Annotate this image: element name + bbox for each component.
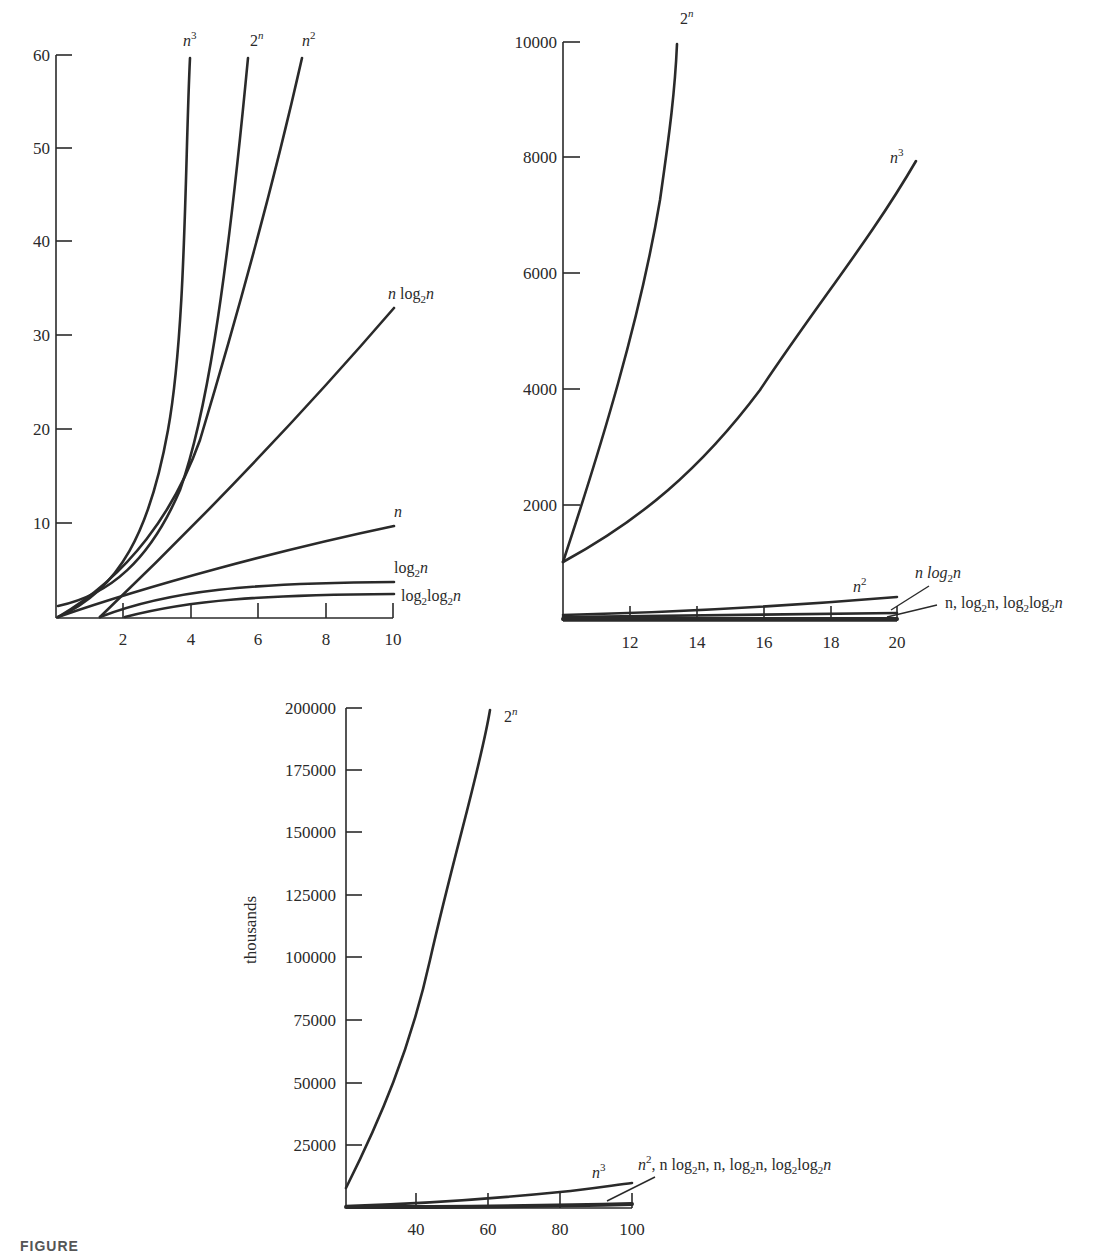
plot3-y-axis-title: thousands — [241, 896, 260, 964]
plot2-y-tick-label: 4000 — [523, 380, 557, 399]
plot3-y-ticks: 25000 50000 75000 100000 125000 150000 1… — [285, 699, 362, 1155]
plot1-curve-n-log-n — [100, 308, 394, 617]
plot2-label-linear-group: n, log2n, log2log2n — [945, 594, 1063, 614]
plot3-label-polynomial-group: n2, n log2n, n, log2n, log2log2n — [638, 1153, 831, 1176]
plot3-x-tick-label: 60 — [480, 1220, 497, 1239]
plot1-y-tick-label: 20 — [33, 420, 50, 439]
figure-caption: FIGURE — [20, 1238, 79, 1254]
plot2-leader-linear-group — [887, 605, 937, 617]
plot1-x-tick-label: 8 — [322, 630, 331, 649]
plot2-curve-two-to-n — [563, 44, 677, 562]
plot3-curve-two-to-n — [346, 710, 490, 1188]
plot1-curve-two-to-n — [58, 58, 248, 606]
plot2-curve-n-cubed — [563, 161, 916, 562]
plot2-x-tick-label: 12 — [622, 633, 639, 652]
plot2-y-tick-label: 2000 — [523, 496, 557, 515]
plot3-y-tick-label: 100000 — [285, 948, 336, 967]
plot2-label-two-to-n: 2n — [680, 7, 694, 27]
plot3-label-two-to-n: 2n — [504, 705, 518, 725]
plot1-y-tick-label: 10 — [33, 514, 50, 533]
plot3-y-tick-label: 75000 — [294, 1011, 337, 1030]
plot3-y-tick-label: 125000 — [285, 886, 336, 905]
plot1-x-tick-label: 6 — [254, 630, 263, 649]
plot3-y-tick-label: 200000 — [285, 699, 336, 718]
plot1-y-tick-label: 60 — [33, 46, 50, 65]
plot3-x-tick-label: 40 — [408, 1220, 425, 1239]
plot1-label-log-log-n: log2log2n — [401, 587, 461, 607]
plot2-y-tick-label: 6000 — [523, 264, 557, 283]
plot2-x-tick-label: 16 — [756, 633, 773, 652]
plot3-leader-polynomial-group — [607, 1177, 655, 1201]
plot1-label-log-n: log2n — [394, 559, 428, 579]
plot1-x-tick-label: 4 — [187, 630, 196, 649]
plot1-label-two-to-n: 2n — [250, 29, 264, 49]
plot2-y-tick-label: 8000 — [523, 148, 557, 167]
plot3-y-tick-label: 50000 — [294, 1074, 337, 1093]
plot1-label-n-cubed: n3 — [183, 29, 197, 49]
plot2-label-n-squared: n2 — [853, 575, 867, 595]
plot3-curve-n-cubed — [346, 1183, 632, 1206]
plot3-x-tick-label: 80 — [552, 1220, 569, 1239]
plot2-y-tick-label: 10000 — [515, 33, 558, 52]
plot1-label-n-log-n: n log2n — [388, 285, 434, 305]
plot-small-n: 10 20 30 40 50 60 2 4 6 8 10 n3 — [33, 29, 461, 649]
plot1-y-tick-label: 40 — [33, 232, 50, 251]
plot1-y-tick-label: 50 — [33, 139, 50, 158]
plot1-y-ticks: 10 20 30 40 50 60 — [33, 46, 72, 533]
plot1-label-n: n — [394, 503, 402, 520]
plot1-label-n-squared: n2 — [302, 29, 316, 49]
plot3-y-tick-label: 25000 — [294, 1136, 337, 1155]
plot1-curve-n — [58, 526, 394, 617]
plot2-x-tick-label: 14 — [689, 633, 707, 652]
plot1-y-tick-label: 30 — [33, 326, 50, 345]
plot2-x-tick-label: 20 — [889, 633, 906, 652]
plot-large-n: 25000 50000 75000 100000 125000 150000 1… — [241, 699, 831, 1239]
plot2-label-n-cubed: n3 — [890, 146, 904, 166]
plot1-x-tick-label: 10 — [385, 630, 402, 649]
plot2-x-tick-label: 18 — [823, 633, 840, 652]
plot3-x-tick-label: 100 — [619, 1220, 645, 1239]
plot-medium-n: 2000 4000 6000 8000 10000 12 14 16 18 20… — [515, 7, 1063, 652]
plot2-y-ticks: 2000 4000 6000 8000 10000 — [515, 33, 581, 515]
plot3-y-tick-label: 150000 — [285, 823, 336, 842]
plot1-curve-n-cubed — [58, 58, 190, 617]
plot3-label-n-cubed: n3 — [592, 1161, 606, 1181]
plot1-x-tick-label: 2 — [119, 630, 128, 649]
plot3-y-tick-label: 175000 — [285, 761, 336, 780]
plot2-label-n-log-n: n log2n — [915, 564, 961, 584]
